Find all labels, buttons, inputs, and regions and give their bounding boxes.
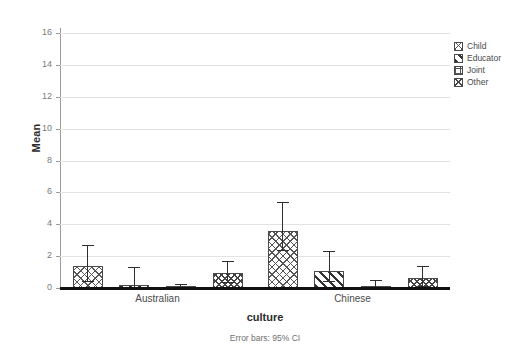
y-tick-label: 2: [30, 250, 52, 260]
plot-area: [60, 33, 450, 288]
y-tick-label: 4: [30, 218, 52, 228]
legend: ChildEducatorJointOther: [454, 41, 501, 89]
error-bar-cap-lower: [222, 282, 234, 283]
y-tick-label: 12: [30, 91, 52, 101]
y-tick-label: 0: [30, 282, 52, 292]
y-tick-label: 14: [30, 59, 52, 69]
bar-chart: Mean 0246810121416 AustralianChinese cul…: [0, 0, 530, 352]
error-bar-cap-upper: [82, 245, 94, 246]
error-bar-stem: [282, 202, 283, 250]
legend-item-child[interactable]: Child: [454, 41, 501, 52]
y-tick-label: 16: [30, 27, 52, 37]
legend-swatch-icon: [454, 66, 463, 75]
legend-label: Other: [467, 77, 488, 88]
error-bar-cap-lower: [82, 281, 94, 282]
y-axis-title: Mean: [30, 98, 42, 178]
legend-label: Child: [467, 41, 486, 52]
error-bar-footnote: Error bars: 95% CI: [0, 333, 530, 343]
legend-item-educator[interactable]: Educator: [454, 53, 501, 64]
legend-label: Joint: [467, 65, 485, 76]
error-bar-stem: [422, 266, 423, 287]
legend-label: Educator: [467, 53, 501, 64]
y-tick-label: 6: [30, 186, 52, 196]
category-label-chinese: Chinese: [293, 293, 413, 304]
error-bar-stem: [227, 261, 228, 283]
error-bar-stem: [134, 267, 135, 287]
error-bar-stem: [87, 245, 88, 281]
y-tick-label: 10: [30, 123, 52, 133]
error-bar-cap-upper: [175, 284, 187, 285]
error-bar-cap-upper: [323, 251, 335, 252]
error-bar-cap-upper: [417, 266, 429, 267]
error-bar-cap-lower: [323, 281, 335, 282]
x-axis-title: culture: [0, 311, 530, 323]
legend-item-other[interactable]: Other: [454, 77, 501, 88]
y-tick-label: 8: [30, 155, 52, 165]
legend-swatch-icon: [454, 78, 463, 87]
legend-swatch-icon: [454, 54, 463, 63]
x-axis-baseline: [60, 287, 450, 290]
category-label-australian: Australian: [98, 293, 218, 304]
error-bar-stem: [329, 251, 330, 280]
legend-swatch-icon: [454, 42, 463, 51]
error-bar-cap-upper: [128, 267, 140, 268]
error-bar-cap-upper: [370, 280, 382, 281]
legend-item-joint[interactable]: Joint: [454, 65, 501, 76]
error-bar-cap-upper: [277, 202, 289, 203]
error-bar-cap-upper: [222, 261, 234, 262]
error-bar-cap-lower: [277, 250, 289, 251]
